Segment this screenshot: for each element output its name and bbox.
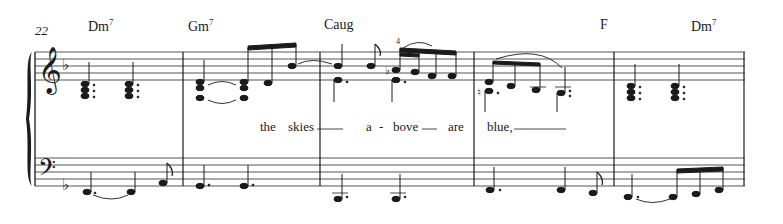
flat-icon: ♭ (385, 64, 390, 77)
bass-notes (83, 163, 723, 203)
treble-clef-icon: 𝄞 (38, 46, 62, 95)
barlines (183, 52, 744, 186)
treble-notes: ♭ 4 ♮ (81, 37, 685, 112)
flat-icon: ♭ (62, 176, 69, 194)
staff-system: 𝄞 ♭ 𝄢 ♭ (0, 0, 783, 224)
fingering-number: 4 (396, 37, 400, 46)
bass-staff-lines (35, 158, 745, 186)
brace-icon (26, 52, 32, 186)
bass-clef-icon: 𝄢 (38, 154, 56, 187)
natural-icon: ♮ (477, 86, 481, 99)
flat-icon: ♭ (62, 56, 69, 74)
